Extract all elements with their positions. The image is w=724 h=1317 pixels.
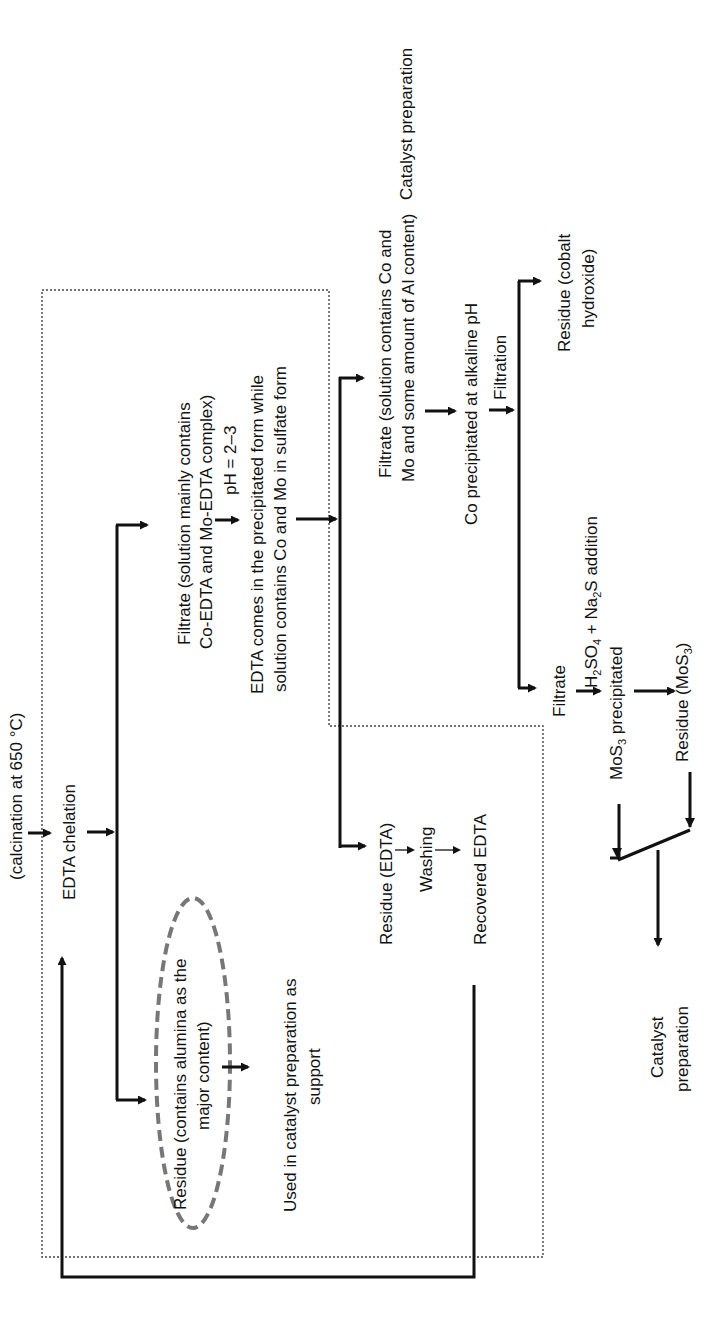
label-washing: Washing xyxy=(417,826,436,892)
label-residue-edta: Residue (EDTA) xyxy=(377,823,396,946)
label-edta-chelation: EDTA chelation xyxy=(60,784,79,900)
label-recovered-edta: Recovered EDTA xyxy=(471,813,490,945)
label-mos3-precip: MoS3 precipitated xyxy=(607,646,628,780)
label-residue-cobalt-line2: hydroxide) xyxy=(579,249,598,328)
label-filtrate1-line1: Filtrate (solution mainly contains xyxy=(175,402,194,645)
label-residue-alumina-line2: major content) xyxy=(194,1021,213,1130)
label-filtrate3: Filtrate xyxy=(550,665,569,717)
label-filtrate2-line1: Filtrate (solution contains Co and xyxy=(376,229,395,478)
process-flow-diagram: (calcination at 650 °C) EDTA chelation F… xyxy=(0,0,724,1317)
label-filtration: Filtration xyxy=(491,335,510,400)
label-filtrate1-line2: Co-EDTA and Mo-EDTA complex) xyxy=(197,395,216,649)
recycle-edta-loop xyxy=(62,958,474,1277)
label-edta-precip-line2: solution contains Co and Mo in sulfate f… xyxy=(271,366,290,692)
label-edta-precip-line1: EDTA comes in the precipitated form whil… xyxy=(248,375,267,694)
merge-diagonal xyxy=(618,830,690,860)
label-ph-condition: pH = 2–3 xyxy=(221,426,240,495)
label-catalyst-prep-bottom-line2: preparation xyxy=(673,1006,692,1092)
label-used-support-line2: support xyxy=(305,1048,324,1105)
label-calcination: (calcination at 650 °C) xyxy=(7,713,26,880)
merge-arrowhead-right xyxy=(685,818,695,828)
label-catalyst-prep-top: Catalyst preparation xyxy=(397,48,416,200)
label-residue-alumina-line1: Residue (contains alumina as the xyxy=(171,959,190,1210)
label-filtrate2-line2: Mo and some amount of Al content) xyxy=(399,214,418,482)
alumina-residue-ellipse xyxy=(156,898,230,1228)
label-residue-cobalt-line1: Residue (cobalt xyxy=(555,234,574,352)
label-catalyst-prep-bottom-line1: Catalyst xyxy=(648,1016,667,1078)
label-acid-addition: H2SO4 + Na2S addition xyxy=(582,516,603,688)
label-used-support-line1: Used in catalyst preparation as xyxy=(281,979,300,1212)
label-co-precip: Co precipitated at alkaline pH xyxy=(462,303,481,525)
label-residue-mos3: Residue (MoS3) xyxy=(673,642,694,762)
